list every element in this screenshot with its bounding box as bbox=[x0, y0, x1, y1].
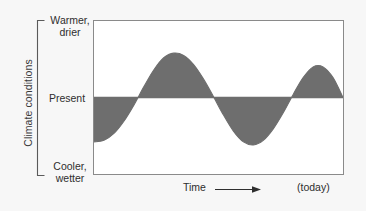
right-arrow-icon bbox=[215, 185, 263, 194]
y-axis-label-warmer-drier: Warmer, drier bbox=[47, 14, 93, 38]
x-axis-end-label: (today) bbox=[297, 181, 330, 193]
y-axis-title: Climate conditions bbox=[22, 28, 34, 178]
plot-area bbox=[93, 20, 344, 175]
chart-series-layer bbox=[94, 53, 343, 145]
climate-conditions-figure: Climate conditions Warmer, drier Present… bbox=[0, 0, 366, 211]
climate-curve-chart bbox=[94, 21, 343, 174]
x-axis-title: Time bbox=[183, 181, 206, 193]
y-axis-label-cooler-wetter: Cooler, wetter bbox=[47, 160, 93, 184]
climate-area-fill bbox=[94, 53, 343, 145]
y-axis-label-present: Present bbox=[41, 92, 93, 104]
